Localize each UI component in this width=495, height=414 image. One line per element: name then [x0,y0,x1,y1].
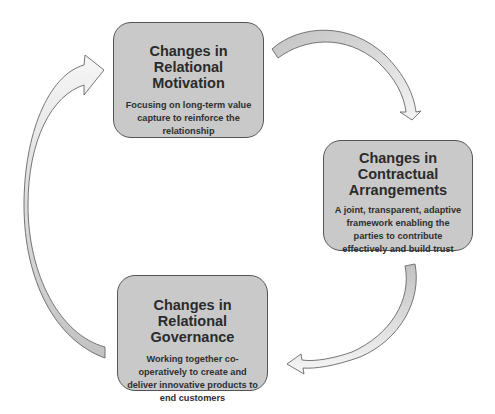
arrow-governance-to-motivation [24,55,105,358]
node-title: Changes in Relational Governance [126,297,259,345]
node-description: Working together co-operatively to creat… [126,353,259,405]
arrow-motivation-to-contractual [272,30,421,120]
node-relational-governance: Changes in Relational Governance Working… [117,275,268,391]
arrow-contractual-to-governance [287,264,416,374]
node-description: Focusing on long-term value capture to r… [122,99,255,138]
node-title: Changes in Contractual Arrangements [332,150,464,198]
node-description: A joint, transparent, adaptive framework… [332,204,464,256]
node-title: Changes in Relational Motivation [122,43,255,91]
node-contractual-arrangements: Changes in Contractual Arrangements A jo… [323,140,473,251]
node-relational-motivation: Changes in Relational Motivation Focusin… [113,22,264,138]
